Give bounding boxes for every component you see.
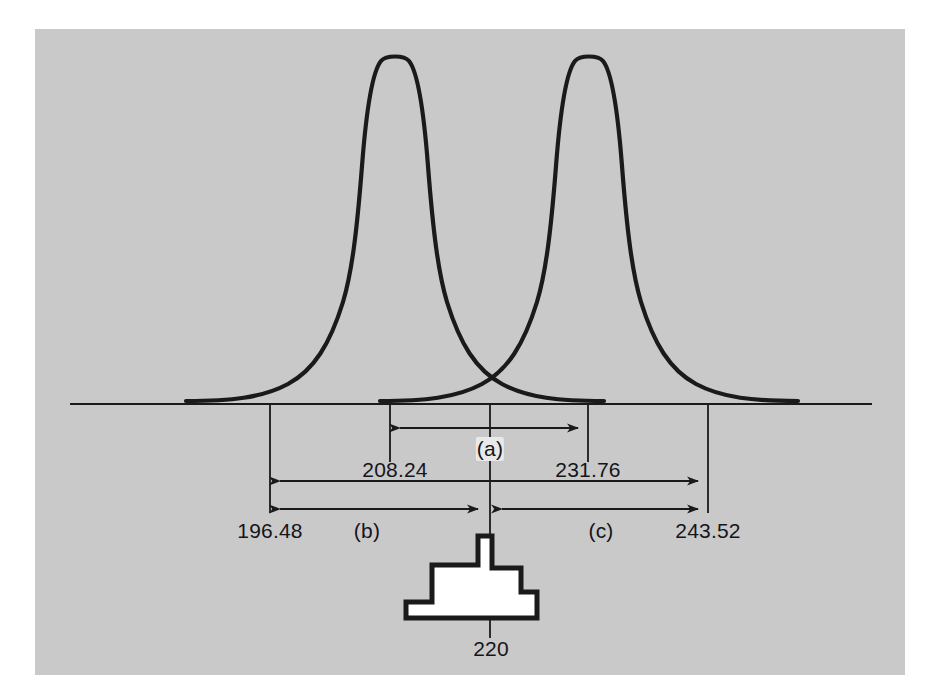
figure-drawing [0,0,941,699]
label-lower-natural-limit: 196.48 [237,519,302,543]
tolerance-step-profile [406,536,537,618]
label-nominal-value: 220 [473,637,509,661]
normal-curve-right [380,57,798,402]
distribution-curves [186,57,798,402]
label-left-span-marker-b: (b) [354,519,380,543]
label-upper-spec-limit: 231.76 [555,458,620,482]
label-right-span-marker-c: (c) [588,519,613,543]
label-upper-natural-limit: 243.52 [675,519,740,543]
normal-curve-left [186,57,604,402]
label-center-marker-a: (a) [476,437,504,461]
figure-root: 196.48 208.24 (a) 231.76 243.52 (b) (c) … [0,0,941,699]
label-lower-spec-limit: 208.24 [362,458,427,482]
